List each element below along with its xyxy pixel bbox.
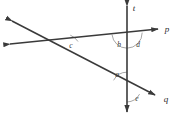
- line-label-q: q: [164, 94, 169, 104]
- angle-arc-group: [70, 33, 142, 102]
- angle-label-a: a: [115, 70, 119, 79]
- angle-label-b: b: [117, 40, 121, 49]
- angle-arc-d: [127, 33, 142, 49]
- geometry-canvas: t p q c b d a e: [0, 0, 180, 118]
- line-label-t: t: [133, 3, 136, 13]
- line-label-p: p: [164, 24, 170, 34]
- angle-label-d: d: [136, 40, 140, 49]
- geometry-diagram: t p q c b d a e: [0, 0, 180, 118]
- angle-label-c: c: [69, 41, 73, 50]
